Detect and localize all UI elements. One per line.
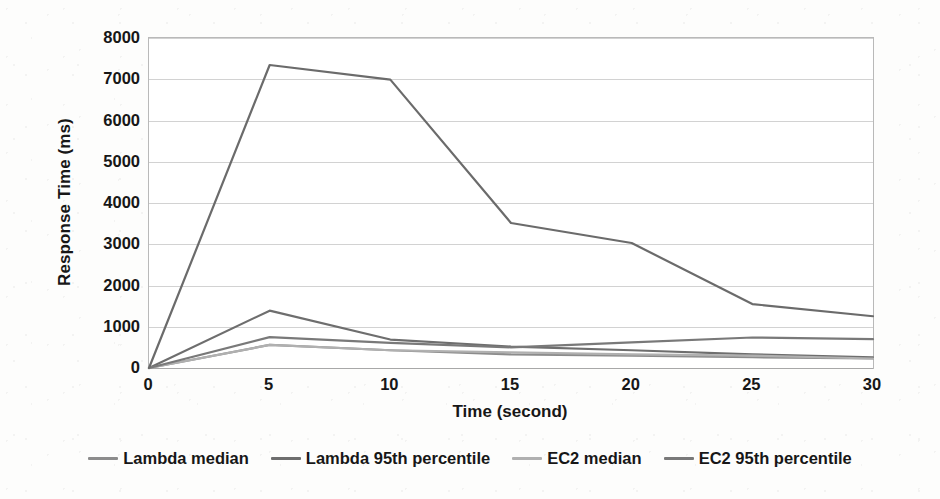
legend-line-icon — [664, 457, 694, 460]
legend-label: EC2 median — [547, 449, 641, 468]
series-line — [149, 65, 873, 368]
x-tick-label: 30 — [837, 375, 907, 394]
legend-label: EC2 95th percentile — [699, 449, 852, 468]
chart-figure: Response Time (ms) 010002000300040005000… — [0, 0, 940, 499]
y-tick-label: 0 — [52, 358, 140, 377]
x-tick-label: 0 — [113, 375, 183, 394]
legend-item[interactable]: EC2 median — [512, 449, 641, 468]
y-axis-tick-labels: 010002000300040005000600070008000 — [52, 37, 140, 367]
series-lines — [149, 38, 873, 368]
gridline-0 — [149, 368, 873, 369]
x-axis-tick-labels: 051015202530 — [148, 375, 872, 399]
legend-line-icon — [271, 457, 301, 460]
y-tick-label: 5000 — [52, 151, 140, 170]
plot-area — [148, 37, 874, 369]
y-tick-label: 2000 — [52, 275, 140, 294]
x-tick-label: 20 — [596, 375, 666, 394]
legend-line-icon — [88, 457, 118, 460]
x-tick-label: 10 — [354, 375, 424, 394]
x-tick-label: 25 — [716, 375, 786, 394]
legend-label: Lambda median — [123, 449, 249, 468]
legend-item[interactable]: Lambda 95th percentile — [271, 449, 490, 468]
y-tick-label: 1000 — [52, 316, 140, 335]
legend-item[interactable]: EC2 95th percentile — [664, 449, 852, 468]
legend-label: Lambda 95th percentile — [306, 449, 490, 468]
y-tick-label: 3000 — [52, 234, 140, 253]
chart-legend: Lambda medianLambda 95th percentileEC2 m… — [0, 449, 940, 468]
x-tick-label: 15 — [475, 375, 545, 394]
y-tick-label: 8000 — [52, 28, 140, 47]
x-axis-title: Time (second) — [148, 402, 872, 422]
y-tick-label: 4000 — [52, 193, 140, 212]
legend-line-icon — [512, 457, 542, 460]
y-tick-label: 7000 — [52, 69, 140, 88]
legend-item[interactable]: Lambda median — [88, 449, 249, 468]
x-tick-label: 5 — [234, 375, 304, 394]
y-tick-label: 6000 — [52, 110, 140, 129]
